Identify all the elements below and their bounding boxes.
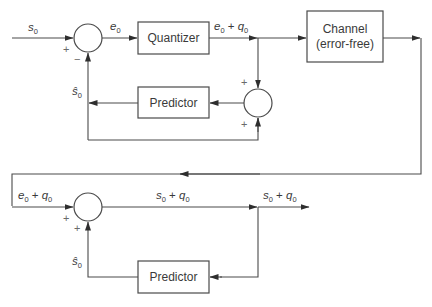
channel-sublabel: (error-free) [316, 37, 374, 51]
decoder-reconstructed-label: s0 + q0 [156, 189, 190, 204]
subtractor-plus-sign: + [63, 43, 69, 55]
encoder-predictor-label: Predictor [149, 96, 197, 110]
decoder-predictor-label: Predictor [149, 270, 197, 284]
quantizer-label: Quantizer [147, 31, 199, 45]
decoder-adder-junction [74, 193, 102, 221]
reconstruction-adder-junction [244, 89, 272, 117]
decoder-input-label: e0 + q0 [18, 189, 52, 204]
decoder-output-label: s0 + q0 [263, 189, 297, 204]
channel-label: Channel [323, 22, 368, 36]
decoder-prediction-line [88, 240, 138, 277]
subtractor-junction [74, 24, 102, 52]
subtractor-minus-sign: − [74, 53, 80, 65]
input-signal-label: s0 [28, 21, 38, 36]
error-signal-label: e0 [110, 20, 121, 35]
prediction-to-adder-line [88, 118, 258, 140]
dpcm-block-diagram: s0 + − e0 Quantizer e0 + q0 Channel (err… [0, 0, 432, 307]
adder-bottom-plus-sign: + [241, 118, 247, 130]
adder-top-plus-sign: + [241, 76, 247, 88]
decoder-adder-plus-sign-2: + [74, 222, 80, 234]
quantized-signal-label: e0 + q0 [214, 20, 248, 35]
decoder-adder-plus-sign-1: + [63, 212, 69, 224]
encoder-prediction-label: ŝ0 [72, 85, 82, 100]
decoder-prediction-label: ŝ0 [72, 255, 82, 270]
decoder-feedback-line [220, 207, 258, 277]
